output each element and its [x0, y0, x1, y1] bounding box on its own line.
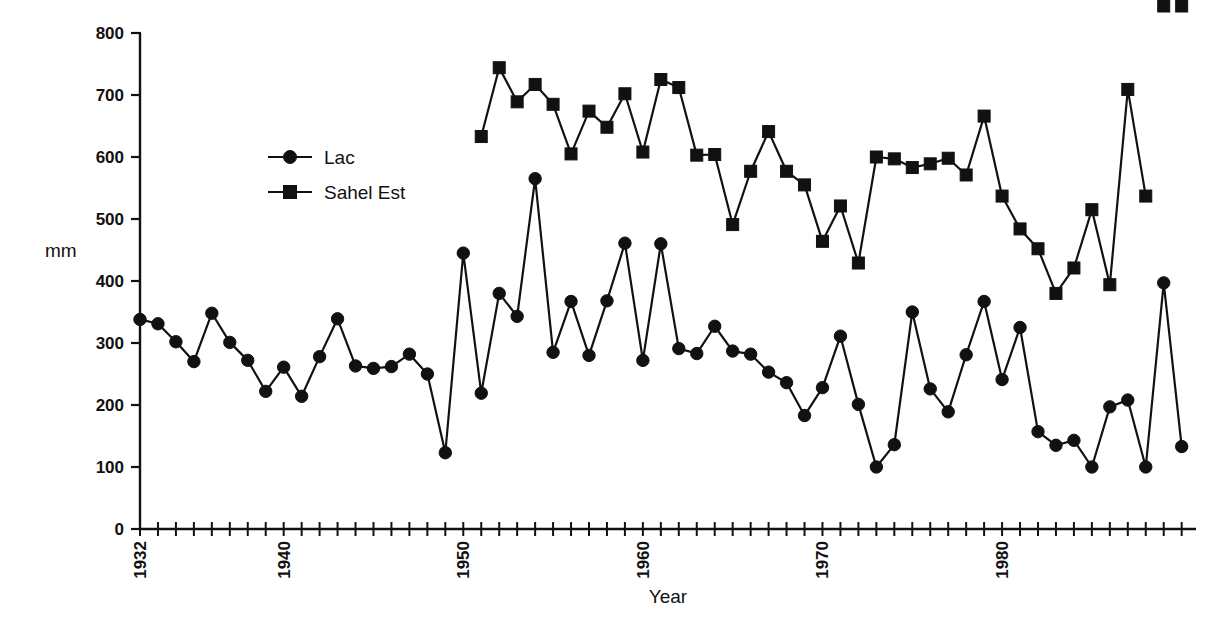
data-point	[960, 349, 972, 361]
data-point	[1122, 83, 1134, 95]
x-tick-label: 1980	[993, 541, 1012, 579]
data-point	[798, 409, 810, 421]
data-point	[852, 257, 864, 269]
data-point	[745, 165, 757, 177]
data-point	[565, 295, 577, 307]
data-point	[709, 320, 721, 332]
legend-label-sahel-est: Sahel Est	[324, 182, 406, 203]
data-point	[583, 105, 595, 117]
data-point	[1158, 0, 1170, 12]
data-point	[547, 98, 559, 110]
data-point	[691, 149, 703, 161]
x-axis-title: Year	[649, 586, 688, 607]
data-point	[763, 126, 775, 138]
data-point	[1014, 223, 1026, 235]
data-point	[942, 406, 954, 418]
series-path	[481, 68, 1146, 294]
data-point	[924, 158, 936, 170]
data-point	[565, 148, 577, 160]
data-point	[709, 149, 721, 161]
data-point	[529, 173, 541, 185]
legend: Lac Sahel Est	[268, 147, 406, 203]
data-point	[978, 295, 990, 307]
data-point	[744, 348, 756, 360]
data-point	[313, 350, 325, 362]
x-tick-label: 1960	[634, 541, 653, 579]
data-point	[619, 237, 631, 249]
y-tick-label: 0	[115, 520, 124, 539]
data-point	[1122, 394, 1134, 406]
y-axis-tick-labels: 0100200300400500600700800	[96, 24, 124, 539]
data-point	[277, 361, 289, 373]
data-point	[511, 96, 523, 108]
data-point	[727, 219, 739, 231]
data-point	[547, 346, 559, 358]
data-point	[691, 347, 703, 359]
data-point	[188, 355, 200, 367]
data-point	[816, 381, 828, 393]
square-marker-icon	[284, 186, 297, 199]
data-point	[1086, 461, 1098, 473]
data-point	[439, 447, 451, 459]
data-point	[655, 238, 667, 250]
data-point	[1158, 277, 1170, 289]
data-point	[529, 78, 541, 90]
y-tick-label: 700	[96, 86, 124, 105]
data-point	[960, 169, 972, 181]
data-point	[673, 342, 685, 354]
data-point	[816, 235, 828, 247]
data-point	[1068, 434, 1080, 446]
legend-item-lac: Lac	[268, 147, 355, 168]
chart-canvas: 0100200300400500600700800 19321940195019…	[0, 0, 1216, 637]
data-point	[1086, 204, 1098, 216]
x-tick-label: 1970	[813, 541, 832, 579]
data-point	[206, 307, 218, 319]
data-point	[780, 376, 792, 388]
data-point	[260, 385, 272, 397]
data-point	[1140, 461, 1152, 473]
data-point	[475, 387, 487, 399]
data-point	[906, 306, 918, 318]
y-axis-title: mm	[45, 240, 77, 261]
data-point	[996, 373, 1008, 385]
x-tick-label: 1950	[454, 541, 473, 579]
data-point	[996, 190, 1008, 202]
data-point	[493, 62, 505, 74]
circle-marker-icon	[284, 151, 297, 164]
data-point	[799, 179, 811, 191]
rainfall-line-chart: 0100200300400500600700800 19321940195019…	[0, 0, 1216, 637]
series-sahel-est	[475, 0, 1187, 299]
data-point	[1175, 440, 1187, 452]
data-point	[762, 366, 774, 378]
y-tick-label: 300	[96, 334, 124, 353]
data-point	[475, 131, 487, 143]
data-point	[1050, 439, 1062, 451]
data-point	[601, 295, 613, 307]
data-point	[870, 461, 882, 473]
data-point	[888, 153, 900, 165]
data-point	[367, 362, 379, 374]
data-point	[152, 318, 164, 330]
data-point	[457, 247, 469, 259]
data-point	[242, 354, 254, 366]
legend-item-sahel-est: Sahel Est	[268, 182, 406, 203]
data-point	[1050, 287, 1062, 299]
legend-label-lac: Lac	[324, 147, 355, 168]
data-point	[906, 162, 918, 174]
data-point	[1104, 279, 1116, 291]
data-point	[924, 383, 936, 395]
y-tick-label: 600	[96, 148, 124, 167]
data-point	[493, 287, 505, 299]
data-point	[870, 151, 882, 163]
x-tick-label: 1932	[131, 541, 150, 579]
y-tick-label: 500	[96, 210, 124, 229]
data-point	[888, 438, 900, 450]
y-tick-label: 800	[96, 24, 124, 43]
data-point	[134, 313, 146, 325]
data-point	[852, 398, 864, 410]
data-point	[511, 310, 523, 322]
series-path	[140, 179, 1182, 467]
data-point	[331, 313, 343, 325]
data-point	[978, 110, 990, 122]
data-point	[1032, 425, 1044, 437]
